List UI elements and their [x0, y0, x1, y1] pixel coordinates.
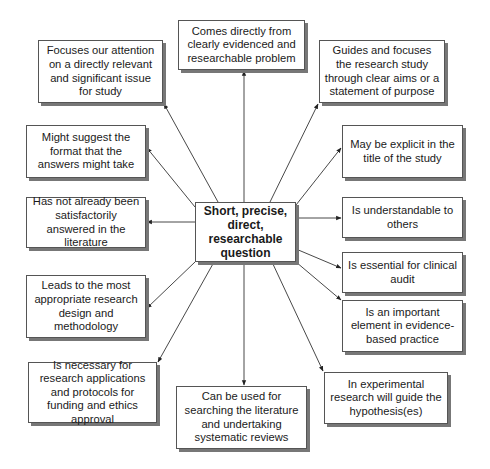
node-label: Can be used for searching the literature… — [181, 390, 302, 444]
node-label: Is essential for clinical audit — [347, 259, 458, 286]
node-explicit-title: May be explicit in the title of the stud… — [342, 125, 463, 178]
node-label: Comes directly from clearly evidenced an… — [183, 25, 300, 66]
node-label: Is necessary for research applications a… — [33, 359, 152, 427]
node-label: Guides and focuses the research study th… — [324, 44, 440, 98]
node-searching-literature: Can be used for searching the literature… — [176, 386, 307, 449]
node-focuses-attention: Focuses our attention on a directly rele… — [38, 40, 163, 103]
node-guides-focuses: Guides and focuses the research study th… — [319, 40, 445, 103]
node-label: Might suggest the format that the answer… — [31, 131, 141, 172]
node-evidence-based: Is an important element in evidence-base… — [342, 300, 463, 352]
node-label: Has not already been satisfactorily answ… — [31, 195, 141, 249]
node-label: Is an important element in evidence-base… — [347, 306, 458, 347]
node-understandable: Is understandable to others — [342, 197, 463, 238]
node-funding-ethics: Is necessary for research applications a… — [28, 362, 157, 423]
node-hypothesis: In experimental research will guide the … — [324, 372, 448, 424]
node-research-design: Leads to the most appropriate research d… — [26, 275, 146, 338]
node-label: May be explicit in the title of the stud… — [347, 138, 458, 165]
node-label: In experimental research will guide the … — [329, 378, 443, 419]
node-not-answered: Has not already been satisfactorily answ… — [26, 197, 146, 248]
node-label: Leads to the most appropriate research d… — [31, 279, 141, 333]
node-clinical-audit: Is essential for clinical audit — [342, 252, 463, 293]
central-question-label: Short, precise, direct, researchable que… — [200, 204, 291, 260]
node-suggest-format: Might suggest the format that the answer… — [26, 125, 146, 178]
node-comes-directly: Comes directly from clearly evidenced an… — [178, 20, 305, 70]
node-label: Is understandable to others — [347, 204, 458, 231]
central-question-box: Short, precise, direct, researchable que… — [195, 202, 296, 262]
node-label: Focuses our attention on a directly rele… — [43, 44, 158, 98]
